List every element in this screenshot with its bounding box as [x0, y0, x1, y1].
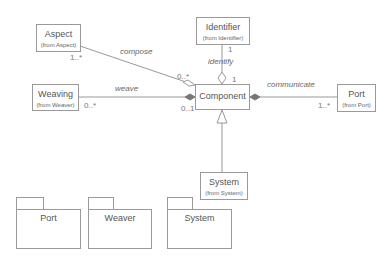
compose-source-multiplicity: 1..*	[70, 53, 82, 62]
identify-target-multiplicity: 1	[232, 75, 236, 84]
class-name: Identifier	[197, 22, 249, 32]
weave-source-multiplicity: 0..*	[84, 101, 96, 110]
class-component[interactable]: Component	[195, 84, 250, 110]
weave-target-multiplicity: 0..1	[181, 104, 194, 113]
class-name: Port	[338, 89, 375, 99]
package-name: Port	[16, 209, 81, 249]
package-name: System	[167, 209, 232, 249]
aggregation-diamond-icon	[218, 72, 226, 84]
compose-label: compose	[120, 47, 152, 56]
class-weaving[interactable]: Weaving (from Weaver)	[32, 84, 79, 111]
package-port[interactable]: Port	[16, 197, 81, 249]
class-aspect[interactable]: Aspect (from Aspect)	[36, 24, 81, 52]
package-name: Weaver	[88, 209, 152, 249]
composition-diamond-icon	[185, 94, 195, 100]
identify-label: identify	[208, 57, 233, 66]
class-name: Component	[196, 91, 249, 101]
communicate-label: communicate	[267, 80, 315, 89]
class-name: Aspect	[37, 29, 80, 39]
composition-diamond-icon	[250, 94, 260, 100]
class-name: Weaving	[33, 89, 78, 99]
generalization-triangle-icon	[217, 110, 227, 123]
package-system[interactable]: System	[167, 197, 232, 249]
communicate-source-multiplicity: 1..*	[318, 101, 330, 110]
class-system[interactable]: System (from System)	[200, 172, 248, 200]
package-weaver[interactable]: Weaver	[88, 197, 152, 249]
class-origin: (from Port)	[338, 101, 375, 109]
weave-label: weave	[115, 84, 138, 93]
class-origin: (from Aspect)	[37, 41, 80, 49]
class-port[interactable]: Port (from Port)	[337, 84, 376, 112]
class-origin: (from System)	[201, 189, 247, 197]
class-name: System	[201, 177, 247, 187]
compose-target-multiplicity: 0..*	[177, 72, 189, 81]
identify-source-multiplicity: 1	[228, 45, 232, 54]
class-identifier[interactable]: Identifier (from Identifier)	[196, 17, 250, 45]
class-origin: (from Identifier)	[197, 34, 249, 42]
class-origin: (from Weaver)	[33, 101, 78, 109]
